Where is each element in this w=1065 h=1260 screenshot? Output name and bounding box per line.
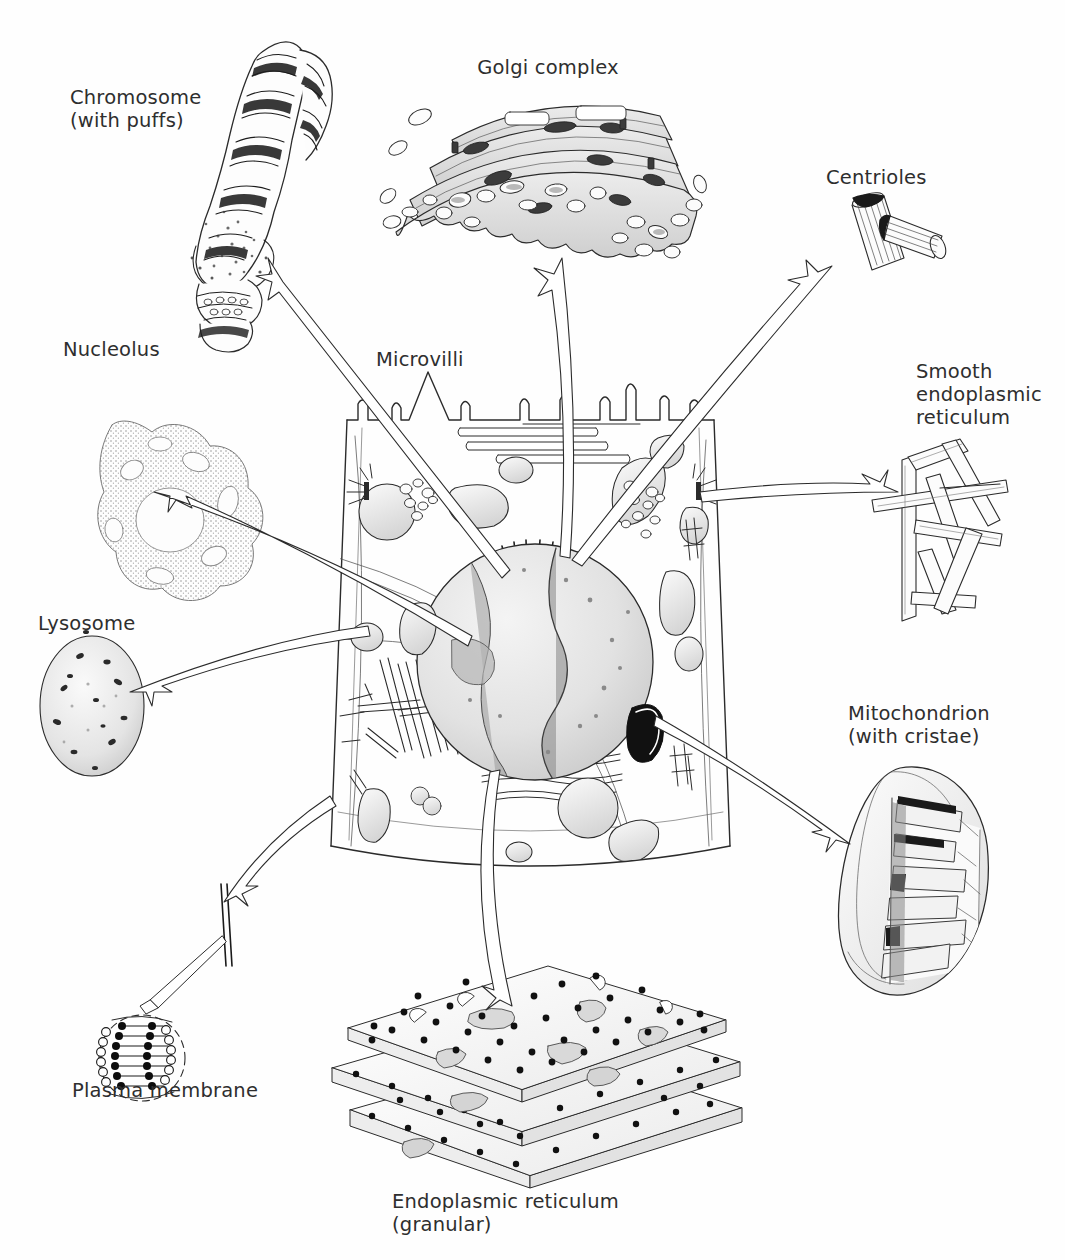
- leader-arrow-rough-er: [481, 770, 512, 1010]
- label-lysosome: Lysosome: [38, 612, 135, 635]
- label-golgi-complex: Golgi complex: [477, 56, 619, 79]
- label-plasma-membrane: Plasma membrane: [72, 1079, 258, 1102]
- cell-diagram-canvas: Chromosome (with puffs) Golgi complex Ce…: [0, 0, 1065, 1260]
- lysosome-illustration: [40, 630, 144, 776]
- label-rough-er: Endoplasmic reticulum (granular): [392, 1190, 619, 1236]
- smooth-er-illustration: [872, 439, 1008, 621]
- label-centrioles: Centrioles: [826, 166, 927, 189]
- nucleus: [417, 544, 653, 810]
- nucleolus-illustration: [98, 421, 263, 601]
- leader-arrow-smooth-er: [700, 470, 898, 502]
- label-smooth-er: Smooth endoplasmic reticulum: [916, 360, 1042, 429]
- centrioles-illustration: [851, 190, 949, 270]
- diagram-artwork: [0, 0, 1065, 1260]
- rough-er-illustration: [332, 966, 742, 1188]
- label-chromosome: Chromosome (with puffs): [70, 86, 202, 132]
- leader-arrow-golgi: [534, 258, 574, 558]
- label-mitochondrion: Mitochondrion (with cristae): [848, 702, 990, 748]
- plasma-membrane-illustration: [97, 884, 232, 1101]
- label-nucleolus: Nucleolus: [63, 338, 160, 361]
- label-microvilli: Microvilli: [376, 348, 464, 371]
- leader-arrow-mitochondrion: [654, 716, 850, 852]
- chromosome-illustration: [191, 42, 333, 352]
- leader-arrow-lysosome: [130, 626, 370, 706]
- golgi-illustration: [377, 106, 708, 258]
- mitochondrion-illustration: [838, 767, 988, 995]
- leader-arrow-plasma-membrane: [224, 796, 336, 906]
